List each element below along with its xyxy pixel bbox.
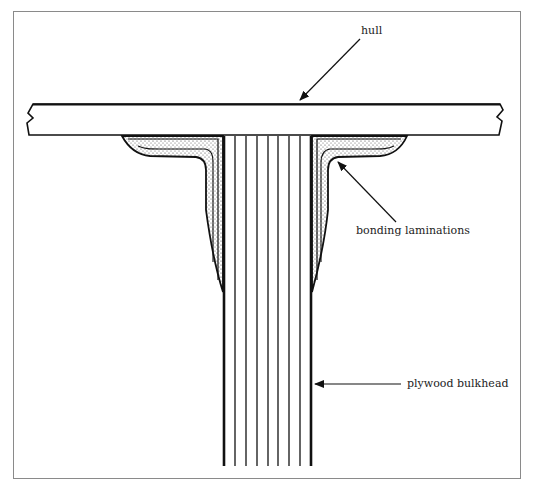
hull-label: hull [361, 25, 382, 36]
left-bonding-lamination [122, 136, 223, 292]
right-bonding-lamination [312, 136, 407, 292]
bonding-laminations-label: bonding laminations [356, 225, 470, 236]
plywood-bulkhead-label: plywood bulkhead [407, 378, 508, 389]
hull-arrow [300, 39, 360, 100]
bulkhead-diagram [0, 0, 537, 494]
hull-plank [27, 104, 503, 135]
plywood-bulkhead [224, 136, 311, 466]
bonding-arrow [338, 162, 396, 222]
